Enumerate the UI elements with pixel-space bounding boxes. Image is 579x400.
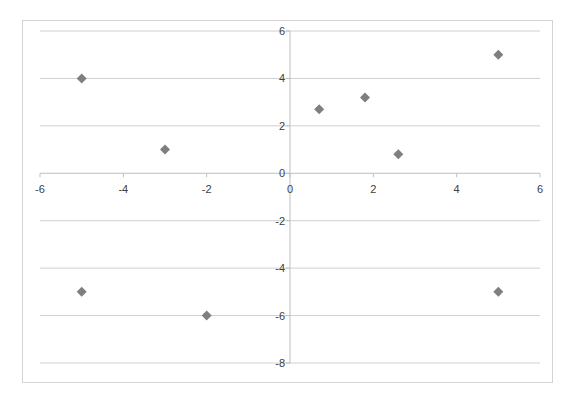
x-axis-tick-labels: -6-4-20246: [35, 183, 543, 195]
x-tick-label: -4: [118, 183, 128, 195]
y-axis-tick-labels: 6420-2-4-6-8: [275, 25, 285, 369]
y-tick-label: -6: [275, 310, 285, 322]
y-tick-label: 0: [279, 167, 285, 179]
y-tick-label: 6: [279, 25, 285, 37]
y-tick-label: 4: [279, 72, 285, 84]
scatter-plot: -6-4-20246 6420-2-4-6-8: [0, 0, 579, 400]
diamond-marker: [77, 287, 87, 297]
x-tick-label: 4: [454, 183, 460, 195]
diamond-marker: [360, 92, 370, 102]
axes: [40, 31, 540, 363]
x-tick-label: 0: [287, 183, 293, 195]
diamond-marker: [77, 73, 87, 83]
y-tick-label: 2: [279, 120, 285, 132]
y-tick-label: -2: [275, 215, 285, 227]
diamond-marker: [393, 149, 403, 159]
diamond-marker: [493, 287, 503, 297]
x-tick-label: 2: [370, 183, 376, 195]
x-tick-label: 6: [537, 183, 543, 195]
diamond-marker: [202, 311, 212, 321]
x-tick-label: -6: [35, 183, 45, 195]
x-tick-label: -2: [202, 183, 212, 195]
diamond-marker: [160, 145, 170, 155]
diamond-marker: [314, 104, 324, 114]
y-tick-label: -8: [275, 357, 285, 369]
y-tick-label: -4: [275, 262, 285, 274]
diamond-marker: [493, 50, 503, 60]
